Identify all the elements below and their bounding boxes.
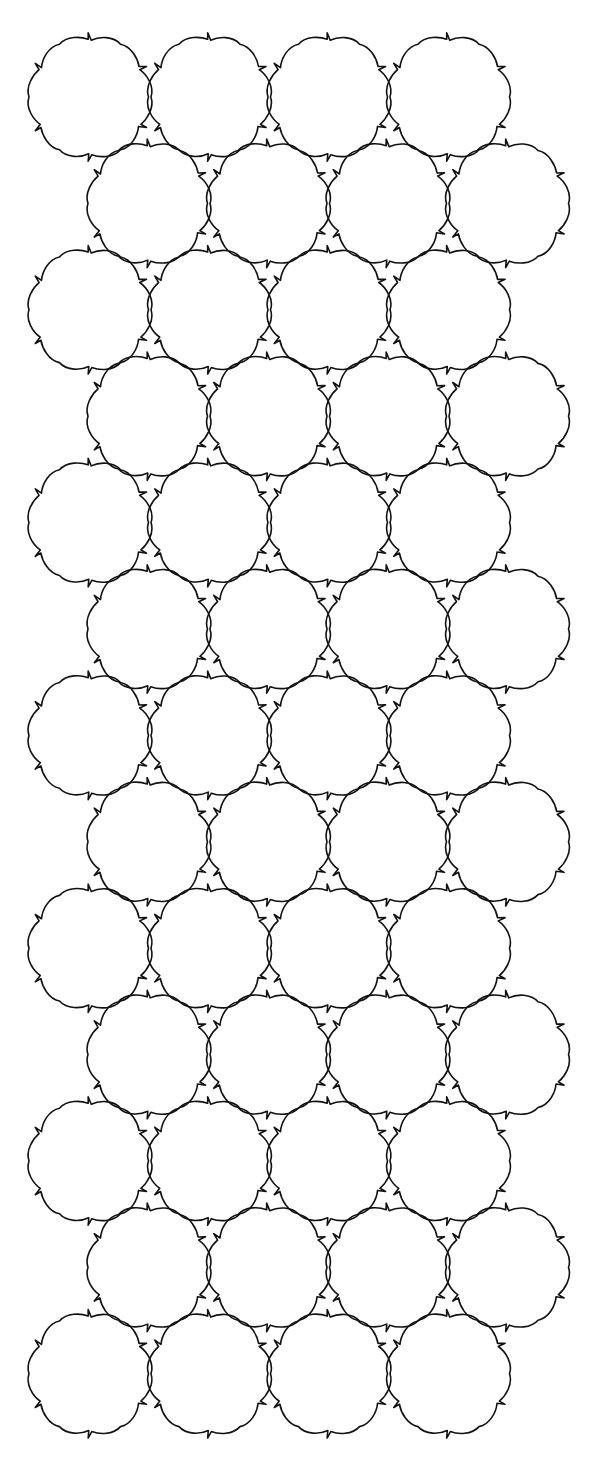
- hexagon-notched-icon: [148, 458, 272, 586]
- tile-outline: [148, 246, 272, 374]
- tile-outline: [446, 990, 570, 1118]
- hexagon-notched-icon: [326, 1203, 450, 1331]
- hexagon-notched-icon: [267, 884, 391, 1012]
- hexagon-notched-icon: [326, 565, 450, 693]
- hexagon-notched-icon: [446, 565, 570, 693]
- hexagon-notched-icon: [387, 246, 511, 374]
- hexagon-notched-icon: [28, 671, 152, 799]
- hexagon-notched-icon: [326, 778, 450, 906]
- hexagon-notched-icon: [148, 33, 272, 161]
- hexagon-notched-icon: [387, 458, 511, 586]
- hexagon-notched-icon: [446, 352, 570, 480]
- tile-outline: [326, 565, 450, 693]
- tile-outline: [87, 778, 211, 906]
- tile-outline: [28, 671, 152, 799]
- hexagon-notched-icon: [207, 352, 331, 480]
- hexagon-notched-icon: [207, 139, 331, 267]
- hexagon-notched-icon: [207, 778, 331, 906]
- tile-outline: [207, 352, 331, 480]
- hexagon-notched-icon: [267, 671, 391, 799]
- tile-outline: [148, 458, 272, 586]
- tile-outline: [207, 778, 331, 906]
- hexagon-notched-icon: [326, 352, 450, 480]
- tile-outline: [28, 458, 152, 586]
- hexagon-notched-icon: [28, 1097, 152, 1225]
- hexagon-notched-icon: [207, 1203, 331, 1331]
- tile-outline: [148, 1097, 272, 1225]
- hexagon-notched-icon: [387, 671, 511, 799]
- tile-outline: [87, 990, 211, 1118]
- hexagon-notched-icon: [207, 990, 331, 1118]
- hexagon-notched-icon: [267, 246, 391, 374]
- tile-outline: [446, 1203, 570, 1331]
- tile-outline: [326, 1203, 450, 1331]
- hexagon-notched-icon: [267, 458, 391, 586]
- hexagon-notched-icon: [446, 139, 570, 267]
- hexagon-notched-icon: [87, 139, 211, 267]
- tile-outline: [207, 990, 331, 1118]
- tile-outline: [446, 139, 570, 267]
- tile-outline: [28, 1310, 152, 1438]
- hexagon-notched-icon: [326, 139, 450, 267]
- tile-outline: [28, 33, 152, 161]
- hexagon-notched-icon: [87, 1203, 211, 1331]
- hexagon-notched-icon: [267, 1310, 391, 1438]
- hexagon-notched-icon: [148, 1097, 272, 1225]
- hexagon-notched-icon: [267, 33, 391, 161]
- tile-outline: [207, 565, 331, 693]
- tile-outline: [267, 884, 391, 1012]
- tile-outline: [87, 1203, 211, 1331]
- hexagon-notched-icon: [28, 884, 152, 1012]
- tile-outline: [387, 1310, 511, 1438]
- tile-outline: [387, 1097, 511, 1225]
- hexagon-notched-icon: [148, 884, 272, 1012]
- tile-outline: [446, 778, 570, 906]
- hexagon-notched-icon: [326, 990, 450, 1118]
- tile-outline: [267, 1310, 391, 1438]
- tile-outline: [267, 671, 391, 799]
- tile-outline: [387, 246, 511, 374]
- hexagon-notched-icon: [446, 778, 570, 906]
- tile-outline: [87, 352, 211, 480]
- hexagon-notched-icon: [446, 1203, 570, 1331]
- hexagon-notched-icon: [387, 33, 511, 161]
- tile-outline: [148, 671, 272, 799]
- tile-outline: [207, 1203, 331, 1331]
- hexagon-notched-icon: [387, 884, 511, 1012]
- tile-outline: [28, 1097, 152, 1225]
- hexagon-notched-icon: [87, 565, 211, 693]
- hexagon-notched-icon: [148, 246, 272, 374]
- tile-outline: [267, 33, 391, 161]
- hexagon-notched-icon: [87, 990, 211, 1118]
- hexagon-notched-icon: [207, 565, 331, 693]
- tile-outline: [446, 565, 570, 693]
- hexagon-notched-icon: [87, 778, 211, 906]
- hexagon-notched-icon: [87, 352, 211, 480]
- tile-outline: [28, 246, 152, 374]
- tile-layer: [28, 33, 569, 1438]
- tile-outline: [326, 139, 450, 267]
- hexagon-notched-icon: [148, 671, 272, 799]
- tile-outline: [326, 352, 450, 480]
- tile-outline: [446, 352, 570, 480]
- tile-outline: [387, 884, 511, 1012]
- tile-outline: [387, 671, 511, 799]
- tile-outline: [148, 33, 272, 161]
- hexagon-notched-icon: [387, 1310, 511, 1438]
- tile-outline: [326, 990, 450, 1118]
- tile-outline: [387, 458, 511, 586]
- hexagon-notched-icon: [387, 1097, 511, 1225]
- tile-outline: [267, 1097, 391, 1225]
- tile-outline: [387, 33, 511, 161]
- hexagon-notched-icon: [28, 246, 152, 374]
- hexagon-notched-icon: [28, 458, 152, 586]
- hexagon-notched-icon: [28, 33, 152, 161]
- tessellation-canvas: [0, 0, 607, 1465]
- hexagon-notched-icon: [148, 1310, 272, 1438]
- hexagon-notched-icon: [446, 990, 570, 1118]
- tile-outline: [87, 565, 211, 693]
- tile-outline: [207, 139, 331, 267]
- hexagon-notched-icon: [267, 1097, 391, 1225]
- tile-outline: [326, 778, 450, 906]
- tile-outline: [148, 884, 272, 1012]
